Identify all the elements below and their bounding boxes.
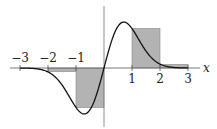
tick-label: −1 [67,51,85,65]
tick-label: −3 [11,51,29,65]
diagram-canvas: −3−2−1123 x [0,0,217,129]
tick-label: 2 [156,72,164,86]
x-axis-label: x [203,61,210,75]
function-step-diagram: −3−2−1123 x [0,0,217,129]
step-rectangle [76,68,104,108]
tick-label: −2 [39,51,57,65]
step-rectangle [48,68,76,72]
tick-label: 3 [184,72,192,86]
tick-label: 1 [128,72,136,86]
